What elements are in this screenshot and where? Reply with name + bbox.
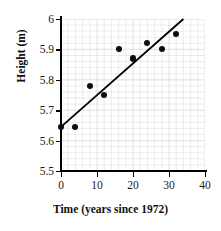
x-axis-title: Time (years since 1972): [0, 203, 221, 215]
x-axis-tick: [61, 172, 62, 177]
x-axis-tick-label: 20: [127, 179, 139, 191]
x-axis-tick: [169, 172, 170, 177]
y-axis-tick-label: 5.7: [40, 104, 54, 116]
y-axis-tick: [56, 49, 61, 50]
x-axis-tick: [133, 172, 134, 177]
y-axis-tick-label: 5.5: [40, 165, 54, 177]
y-axis-tick: [56, 110, 61, 111]
y-axis-tick-label: 5.9: [40, 43, 54, 55]
x-axis-tick-label: 0: [58, 179, 64, 191]
y-axis-tick-label: 5.6: [40, 135, 54, 147]
x-axis-tick-label: 30: [163, 179, 175, 191]
y-axis-title: Height (m): [13, 1, 29, 111]
y-axis-tick: [56, 141, 61, 142]
x-axis-tick: [97, 172, 98, 177]
data-point: [58, 124, 64, 130]
x-axis-tick: [205, 172, 206, 177]
scatter-chart-figure: Height (m) 5.55.65.75.85.96010203040 Tim…: [0, 0, 221, 231]
plot-area: 5.55.65.75.85.96010203040: [61, 19, 205, 171]
y-axis-tick: [56, 80, 61, 81]
data-point: [87, 83, 93, 89]
y-axis-tick: [56, 19, 61, 20]
y-axis-tick-label: 6: [48, 13, 54, 25]
x-axis-tick-label: 10: [91, 179, 103, 191]
x-axis-tick-label: 40: [199, 179, 211, 191]
data-point: [130, 55, 136, 61]
trend-line: [61, 19, 205, 171]
y-axis-tick-label: 5.8: [40, 74, 54, 86]
y-axis-line: [60, 16, 62, 172]
